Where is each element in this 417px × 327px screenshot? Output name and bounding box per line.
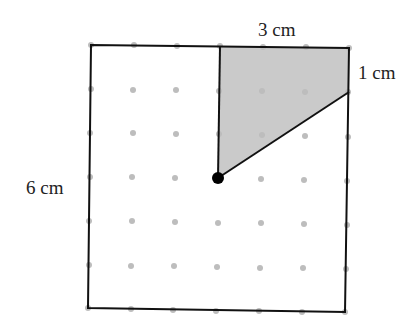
label-left-6cm: 6 cm <box>26 177 63 199</box>
center-point <box>212 172 224 184</box>
label-top-3cm: 3 cm <box>258 19 295 41</box>
shaded-region <box>218 46 349 178</box>
label-right-1cm: 1 cm <box>358 62 395 84</box>
square-dot-grid-figure <box>0 0 417 327</box>
